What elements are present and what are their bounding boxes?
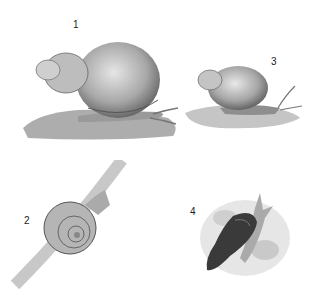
large-snail-illustration (18, 38, 183, 143)
figure-2-snail (10, 160, 130, 290)
figure-3-snail (180, 58, 305, 138)
figure-label-1: 1 (73, 20, 79, 30)
pointed-snail-illustration (195, 188, 295, 283)
medium-snail-illustration (180, 58, 305, 138)
coiled-snail-illustration (10, 160, 130, 290)
figure-4-snail (195, 188, 295, 283)
figure-1-snail (18, 38, 183, 143)
